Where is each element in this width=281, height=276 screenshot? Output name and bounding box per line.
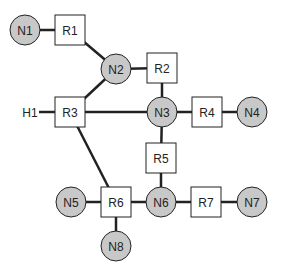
router-label: R1 [62, 24, 78, 38]
router-node-r3: R3 [55, 97, 85, 127]
network-label: N3 [154, 106, 170, 120]
network-label: N8 [108, 240, 124, 254]
router-node-r6: R6 [101, 187, 131, 217]
router-label: R7 [198, 196, 214, 210]
router-node-r5: R5 [146, 143, 176, 173]
network-label: N5 [63, 196, 79, 210]
router-node-r7: R7 [191, 187, 221, 217]
network-node-n5: N5 [56, 187, 86, 217]
network-node-n8: N8 [101, 231, 131, 261]
router-label: R4 [199, 106, 215, 120]
network-label: N1 [17, 24, 33, 38]
router-label: R3 [62, 106, 78, 120]
nodes-layer: N1N2N3N4N5N6N7N8R1R2R3R4R5R6R7H1 [10, 15, 267, 261]
router-label: R2 [154, 62, 170, 76]
network-label: N6 [153, 196, 169, 210]
network-node-n2: N2 [101, 54, 131, 84]
router-label: R6 [108, 196, 124, 210]
router-node-r1: R1 [55, 15, 85, 45]
network-node-n3: N3 [147, 97, 177, 127]
network-node-n1: N1 [10, 15, 40, 45]
host-label-h1: H1 [22, 106, 38, 120]
diagram-svg: N1N2N3N4N5N6N7N8R1R2R3R4R5R6R7H1 [0, 0, 281, 276]
network-label: N2 [108, 63, 124, 77]
network-node-n6: N6 [146, 187, 176, 217]
router-node-r2: R2 [147, 53, 177, 83]
network-node-n4: N4 [237, 97, 267, 127]
router-node-r4: R4 [192, 97, 222, 127]
network-diagram: N1N2N3N4N5N6N7N8R1R2R3R4R5R6R7H1 [0, 0, 281, 276]
network-node-n7: N7 [237, 187, 267, 217]
router-label: R5 [153, 152, 169, 166]
network-label: N4 [244, 106, 260, 120]
network-label: N7 [244, 196, 260, 210]
